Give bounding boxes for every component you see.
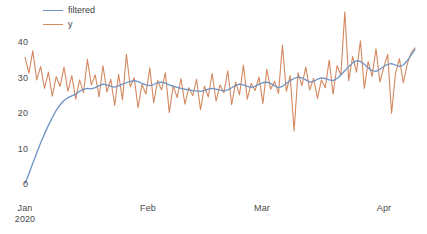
legend-swatch-y [43,24,63,25]
x-axis-tick-apr: Apr [354,203,414,214]
x-axis-tick-jan: Jan [0,203,55,214]
x-axis-tick-year: 2020 [0,214,55,225]
y-axis-tick-0: 0 [6,179,28,190]
x-axis-tick-mar: Mar [232,203,292,214]
y-axis-tick-10: 10 [6,144,28,155]
y-axis-tick-40: 40 [6,37,28,48]
line-chart: 40 30 20 10 0 Jan 2020 Feb Mar Apr filte… [0,0,427,234]
legend-item-filtered[interactable]: filtered [43,5,95,16]
plot-area [0,0,427,234]
plot-background [0,0,427,234]
legend-label-y: y [68,19,73,30]
x-axis-tick-feb: Feb [118,203,178,214]
y-axis-tick-30: 30 [6,73,28,84]
legend-label-filtered: filtered [68,5,95,16]
chart-legend: filtered y [41,3,101,32]
y-axis-tick-20: 20 [6,108,28,119]
legend-item-y[interactable]: y [43,19,95,30]
legend-swatch-filtered [43,10,63,11]
